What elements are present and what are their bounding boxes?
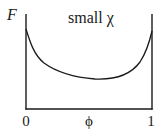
x-tick-label-phi: ϕ <box>85 114 93 129</box>
chart-title: small χ <box>68 10 114 26</box>
y-axis-label: F <box>7 7 17 23</box>
free-energy-curve <box>26 29 152 79</box>
x-tick-label-0: 0 <box>22 114 30 129</box>
x-tick-label-1: 1 <box>147 114 155 129</box>
